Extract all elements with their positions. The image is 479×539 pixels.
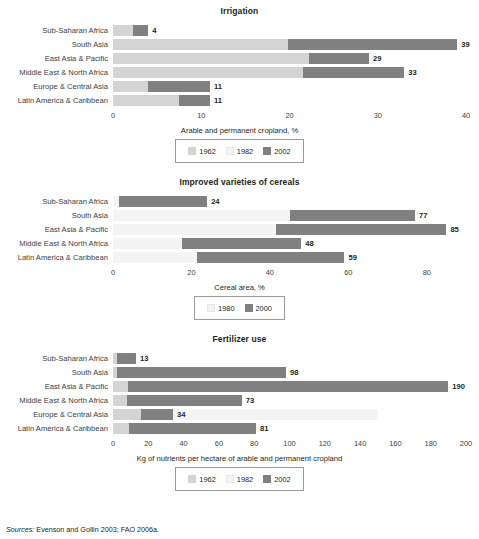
bar-segment-1980 [113, 224, 276, 235]
plot-area: Sub-Saharan Africa13South Asia98East Asi… [0, 352, 479, 435]
x-tick-label: 40 [179, 439, 187, 448]
legend-swatch-icon [226, 147, 234, 155]
x-tick-label: 20 [144, 439, 152, 448]
bar-group: 48 [113, 238, 479, 249]
chart-row: Middle East & North Africa73 [0, 394, 479, 407]
category-label: Europe & Central Asia [0, 409, 108, 420]
bar-value-label: 85 [450, 224, 458, 235]
category-label: South Asia [0, 39, 108, 50]
category-label: Sub-Saharan Africa [0, 353, 108, 364]
bar-value-label: 190 [452, 381, 465, 392]
bar-value-label: 11 [214, 81, 222, 92]
bar-group: 24 [113, 196, 479, 207]
plot-area: Sub-Saharan Africa24South Asia77East Asi… [0, 195, 479, 264]
bar-group: 190 [113, 381, 479, 392]
legend-item[interactable]: 1962 [188, 147, 215, 156]
legend-label: 2000 [256, 304, 272, 313]
figure-root: IrrigationSub-Saharan Africa4South Asia3… [0, 0, 479, 491]
chart-title: Improved varieties of cereals [0, 177, 479, 187]
bar-segment-2002 [117, 353, 136, 364]
chart-legend: 196219822002 [175, 139, 303, 163]
x-tick-label: 20 [187, 268, 195, 277]
bar-segment-2002 [141, 409, 173, 420]
bar-segment-1962 [113, 423, 129, 434]
chart-panel-2: Improved varieties of cerealsSub-Saharan… [0, 163, 479, 320]
legend-label: 1982 [237, 475, 253, 484]
legend-swatch-icon [226, 475, 234, 483]
bar-value-label: 48 [305, 238, 313, 249]
bar-segment-2002 [133, 25, 148, 36]
x-tick-label: 80 [423, 268, 431, 277]
bar-group: 29 [113, 53, 479, 64]
category-label: Latin America & Caribbean [0, 252, 108, 263]
bar-value-label: 81 [260, 423, 268, 434]
bar-segment-2002 [288, 39, 457, 50]
x-axis-title: Kg of nutrients per hectare of arable an… [0, 454, 479, 463]
x-tick-label: 120 [319, 439, 331, 448]
bar-group: 13 [113, 353, 479, 364]
bar-value-label: 77 [419, 210, 427, 221]
bar-segment-2002 [129, 423, 256, 434]
chart-legend: 19802000 [194, 296, 285, 320]
chart-row: East Asia & Pacific85 [0, 223, 479, 236]
chart-row: Europe & Central Asia34 [0, 408, 479, 421]
legend-item[interactable]: 1982 [226, 475, 253, 484]
bar-segment-1962 [113, 395, 127, 406]
bar-segment-1962 [113, 81, 148, 92]
x-tick-label: 40 [462, 111, 470, 120]
category-label: Sub-Saharan Africa [0, 25, 108, 36]
bar-group: 81 [113, 423, 479, 434]
category-label: Middle East & North Africa [0, 395, 108, 406]
bar-segment-2000 [119, 196, 207, 207]
bar-group: 39 [113, 39, 479, 50]
chart-row: Middle East & North Africa48 [0, 237, 479, 250]
chart-row: Latin America & Caribbean11 [0, 94, 479, 107]
chart-title: Irrigation [0, 6, 479, 16]
bar-segment-2000 [276, 224, 447, 235]
chart-row: South Asia39 [0, 38, 479, 51]
legend-label: 1962 [199, 147, 215, 156]
bar-segment-2002 [128, 381, 448, 392]
legend-item[interactable]: 1962 [188, 475, 215, 484]
bar-group: 34 [113, 409, 479, 420]
category-label: Middle East & North Africa [0, 67, 108, 78]
bar-segment-1962 [113, 39, 288, 50]
legend-label: 1982 [237, 147, 253, 156]
legend-swatch-icon [188, 475, 196, 483]
chart-title: Fertilizer use [0, 334, 479, 344]
bar-segment-1980 [113, 238, 182, 249]
chart-row: South Asia77 [0, 209, 479, 222]
x-tick-label: 80 [250, 439, 258, 448]
legend-swatch-icon [207, 304, 215, 312]
legend-item[interactable]: 2000 [245, 304, 272, 313]
bar-value-label: 59 [348, 252, 356, 263]
bar-segment-2002 [303, 67, 404, 78]
x-axis: 020406080 [113, 268, 479, 281]
legend-label: 1980 [218, 304, 234, 313]
bar-segment-1962 [113, 25, 133, 36]
chart-panel-1: IrrigationSub-Saharan Africa4South Asia3… [0, 0, 479, 163]
bar-group: 11 [113, 95, 479, 106]
bar-group: 59 [113, 252, 479, 263]
plot-area: Sub-Saharan Africa4South Asia39East Asia… [0, 24, 479, 107]
x-tick-label: 160 [389, 439, 401, 448]
bar-value-label: 29 [373, 53, 381, 64]
x-tick-label: 0 [111, 439, 115, 448]
x-tick-label: 0 [111, 111, 115, 120]
chart-row: South Asia98 [0, 366, 479, 379]
x-axis: 010203040 [113, 111, 479, 124]
chart-row: Sub-Saharan Africa24 [0, 195, 479, 208]
bar-value-label: 4 [152, 25, 156, 36]
bar-segment-1962 [113, 381, 128, 392]
x-tick-label: 40 [266, 268, 274, 277]
legend-label: 1962 [199, 475, 215, 484]
legend-item[interactable]: 1982 [226, 147, 253, 156]
legend-item[interactable]: 2002 [263, 147, 290, 156]
bar-segment-2002 [127, 395, 242, 406]
legend-swatch-icon [263, 475, 271, 483]
bar-segment-2000 [182, 238, 302, 249]
bar-value-label: 73 [246, 395, 254, 406]
legend-item[interactable]: 2002 [263, 475, 290, 484]
legend-item[interactable]: 1980 [207, 304, 234, 313]
x-tick-label: 20 [285, 111, 293, 120]
